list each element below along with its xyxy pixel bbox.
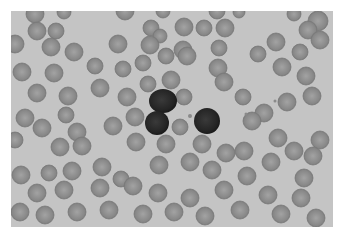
red-blood-cell <box>203 161 221 179</box>
red-blood-cell <box>292 44 308 60</box>
red-blood-cell <box>307 209 325 227</box>
micrograph-canvas <box>11 11 333 227</box>
red-blood-cell <box>216 19 234 37</box>
red-blood-cell <box>196 20 212 36</box>
platelet <box>188 114 192 118</box>
red-blood-cell <box>235 89 251 105</box>
red-blood-cell <box>59 87 77 105</box>
red-blood-cell <box>267 33 285 51</box>
red-blood-cell <box>175 18 193 36</box>
red-blood-cell <box>140 76 156 92</box>
red-blood-cell <box>45 64 63 82</box>
lymphocyte <box>145 111 169 135</box>
red-blood-cell <box>215 73 233 91</box>
red-blood-cell <box>250 46 266 62</box>
red-blood-cell <box>58 107 74 123</box>
red-blood-cell <box>135 55 151 71</box>
red-blood-cell <box>162 71 180 89</box>
red-blood-cell <box>181 153 199 171</box>
red-blood-cell <box>36 206 54 224</box>
red-blood-cell <box>134 205 152 223</box>
red-blood-cell <box>68 203 86 221</box>
red-blood-cell <box>211 40 227 56</box>
red-blood-cell <box>115 61 131 77</box>
lymphocyte <box>149 89 177 113</box>
red-blood-cell <box>262 153 280 171</box>
red-blood-cell <box>287 11 301 21</box>
red-blood-cell <box>48 23 64 39</box>
red-blood-cell <box>181 189 199 207</box>
red-blood-cell <box>272 205 290 223</box>
red-blood-cell <box>124 177 142 195</box>
red-blood-cell <box>12 166 30 184</box>
red-blood-cell <box>28 84 46 102</box>
red-blood-cell <box>259 186 277 204</box>
red-blood-cell <box>11 132 23 148</box>
red-blood-cell <box>109 35 127 53</box>
red-blood-cell <box>141 36 159 54</box>
red-blood-cell <box>93 158 111 176</box>
red-blood-cell <box>126 108 144 126</box>
red-blood-cell <box>238 167 256 185</box>
red-blood-cell <box>42 38 60 56</box>
platelet <box>274 100 277 103</box>
red-blood-cell <box>193 135 211 153</box>
red-blood-cell <box>33 119 51 137</box>
red-blood-cell <box>55 181 73 199</box>
red-blood-cell <box>176 89 192 105</box>
red-blood-cell <box>235 142 253 160</box>
red-blood-cell <box>100 201 118 219</box>
red-blood-cell <box>28 22 46 40</box>
red-blood-cell <box>150 156 168 174</box>
red-blood-cell <box>215 181 233 199</box>
red-blood-cell <box>297 67 315 85</box>
red-blood-cell <box>11 203 29 221</box>
red-blood-cell <box>311 31 329 49</box>
red-blood-cell <box>158 48 174 64</box>
red-blood-cell <box>311 131 329 149</box>
red-blood-cell <box>269 129 287 147</box>
red-blood-cell <box>295 169 313 187</box>
red-blood-cell <box>65 43 83 61</box>
red-blood-cell <box>157 135 175 153</box>
red-blood-cell <box>51 138 69 156</box>
platelet <box>245 113 248 116</box>
red-blood-cell <box>165 203 183 221</box>
red-blood-cell <box>196 207 214 225</box>
red-blood-cell <box>41 165 57 181</box>
red-blood-cell <box>104 117 122 135</box>
red-blood-cell <box>278 93 296 111</box>
red-blood-cell <box>304 147 322 165</box>
red-blood-cell <box>28 184 46 202</box>
red-blood-cell <box>118 88 136 106</box>
lymphocyte <box>194 108 220 134</box>
red-blood-cell <box>16 109 34 127</box>
red-blood-cell <box>91 79 109 97</box>
red-blood-cell <box>73 137 91 155</box>
red-blood-cell <box>127 133 145 151</box>
red-blood-cell <box>87 58 103 74</box>
red-blood-cell <box>172 119 188 135</box>
red-blood-cell <box>91 179 109 197</box>
red-blood-cell <box>217 144 235 162</box>
blood-smear-micrograph <box>11 11 333 227</box>
red-blood-cell <box>63 162 81 180</box>
red-blood-cell <box>292 189 310 207</box>
red-blood-cell <box>178 47 196 65</box>
red-blood-cell <box>231 201 249 219</box>
red-blood-cell <box>285 142 303 160</box>
red-blood-cell <box>149 184 167 202</box>
red-blood-cell <box>273 58 291 76</box>
red-blood-cell <box>13 63 31 81</box>
red-blood-cell <box>303 87 321 105</box>
